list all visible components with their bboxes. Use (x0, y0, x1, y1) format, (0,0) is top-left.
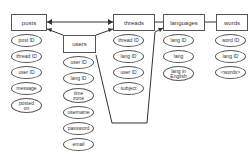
entity-languages[interactable]: languages (163, 14, 205, 31)
attr-user-id: user ID (113, 66, 144, 79)
attr-subject: subject (113, 82, 144, 95)
attr-email: email (63, 138, 94, 151)
attr-thread-id: thread ID (113, 34, 144, 47)
attr-username: username (63, 106, 94, 119)
attr-posted-on: posted on (11, 98, 42, 113)
attr-user-id: user ID (11, 66, 42, 79)
entity-words[interactable]: words (216, 14, 248, 31)
attr-password: password (63, 122, 94, 135)
attr-lang-id: lang ID (113, 50, 144, 63)
attr-message: message (11, 82, 42, 95)
attr-lang-id: lang ID (215, 50, 246, 63)
attr-lang-id: lang ID (163, 34, 194, 47)
attr-thread-id: thread ID (11, 50, 42, 63)
attr-lang-in-english: lang in English (163, 66, 194, 81)
attr-lang: lang (163, 50, 194, 63)
attr-words: <words> (215, 66, 246, 79)
attr-word-id: word ID (215, 34, 246, 47)
attr-time-zone: time zone (63, 88, 94, 103)
entity-threads[interactable]: threads (113, 14, 155, 31)
attr-post-id: post ID (11, 34, 42, 47)
entity-users[interactable]: users (63, 35, 96, 53)
attr-lang-id: lang ID (63, 72, 94, 85)
attr-user-id: user ID (63, 56, 94, 69)
entity-posts[interactable]: posts (11, 14, 47, 31)
